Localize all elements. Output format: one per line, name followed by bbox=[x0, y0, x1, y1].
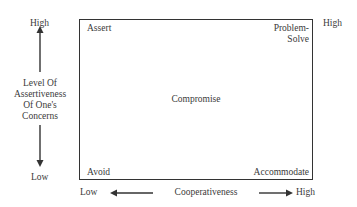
arrow-left-icon bbox=[110, 190, 153, 197]
x-axis-high-label: High bbox=[296, 187, 315, 198]
arrow-up-icon bbox=[37, 26, 44, 72]
arrow-down-icon bbox=[37, 125, 44, 167]
x-axis-title: Cooperativeness bbox=[153, 187, 259, 198]
quadrant-assert: Assert bbox=[87, 23, 111, 34]
quadrant-compromise: Compromise bbox=[79, 94, 313, 105]
arrow-right-icon bbox=[259, 190, 293, 197]
y-axis-low-label: Low bbox=[31, 172, 48, 183]
y-axis-title: Level Of Assertiveness Of One's Concerns bbox=[0, 78, 80, 122]
quadrant-accommodate: Accommodate bbox=[230, 167, 309, 178]
x-axis-low-label: Low bbox=[80, 187, 97, 198]
quadrant-avoid: Avoid bbox=[87, 167, 110, 178]
quadrant-problem-solve: Problem- Solve bbox=[250, 23, 309, 45]
y-axis-high-label: High bbox=[30, 18, 49, 29]
top-right-high-label: High bbox=[323, 18, 342, 29]
